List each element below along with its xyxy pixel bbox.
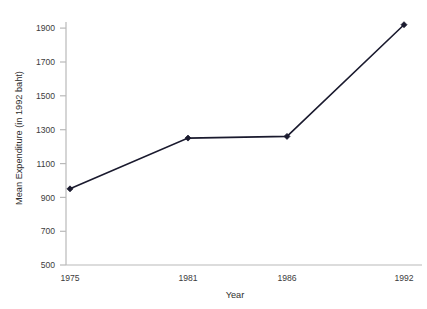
y-tick-label: 500 bbox=[41, 260, 56, 270]
y-tick-label: 700 bbox=[41, 226, 56, 236]
chart-background bbox=[0, 0, 427, 309]
y-tick-label: 1100 bbox=[37, 159, 56, 169]
x-tick-label: 1975 bbox=[60, 273, 79, 283]
y-tick-label: 1300 bbox=[36, 125, 55, 135]
x-tick-label: 1992 bbox=[394, 273, 413, 283]
chart-canvas: 1900 1700 1500 1300 1100 900 700 500 197… bbox=[0, 0, 427, 309]
y-tick-label: 1500 bbox=[36, 91, 55, 101]
x-tick-label: 1986 bbox=[277, 273, 296, 283]
x-tick-label: 1981 bbox=[178, 273, 197, 283]
x-axis-title: Year bbox=[226, 290, 245, 300]
y-tick-label: 1900 bbox=[36, 23, 55, 33]
y-tick-label: 1700 bbox=[36, 57, 55, 67]
line-chart-figure: 1900 1700 1500 1300 1100 900 700 500 197… bbox=[0, 0, 427, 309]
y-axis-title: Mean Expenditure (in 1992 baht) bbox=[14, 71, 24, 205]
y-tick-label: 900 bbox=[41, 193, 56, 203]
